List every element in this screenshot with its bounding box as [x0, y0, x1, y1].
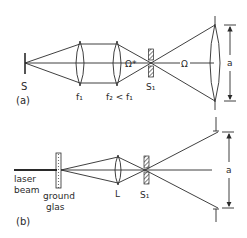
ray [151, 25, 215, 63]
slit-s1-upper-jaw-icon [144, 156, 149, 168]
omega-label: Ω [181, 59, 188, 69]
ray [118, 170, 145, 183]
ray [61, 170, 118, 183]
lens-f1-icon [76, 41, 84, 86]
lens-l-label: L [115, 189, 120, 199]
slit-s1-label: S₁ [140, 190, 150, 200]
optics-diagram: S (a) f₁ f₂ < f₁ Ω* S₁ Ω a [0, 0, 247, 238]
ray [118, 157, 145, 170]
ground-glass-label-line1: ground [43, 191, 75, 201]
source-label: S [21, 81, 27, 92]
laser-label-line2: beam [14, 185, 40, 195]
panel-b-labels: laser beam ground glas L S₁ (b) a [14, 164, 233, 227]
ray [145, 132, 218, 170]
ground-glass-icon [56, 153, 61, 188]
lens-f1-label: f₁ [76, 92, 83, 102]
omega-star-label: Ω* [125, 59, 137, 69]
slit-s1-lower-jaw-icon [144, 172, 149, 184]
slit-s1-upper-jaw-icon [149, 49, 154, 60]
panel-b-tag: (b) [16, 216, 30, 227]
ray [25, 63, 80, 83]
ray [145, 170, 218, 208]
ray [61, 157, 118, 170]
panel-a-labels: S (a) f₁ f₂ < f₁ Ω* S₁ Ω a [16, 57, 234, 106]
lens-f2-icon [113, 41, 121, 86]
laser-label-line1: laser [14, 174, 36, 184]
slit-s1-label: S₁ [146, 82, 156, 92]
ground-glass-label-line2: glas [46, 202, 65, 212]
lens-f2-label: f₂ < f₁ [106, 92, 133, 102]
ray [25, 44, 80, 63]
panel-a-tag: (a) [16, 95, 30, 106]
dimension-a-label: a [226, 165, 232, 175]
slit-s1-lower-jaw-icon [149, 66, 154, 77]
dimension-a-label: a [227, 58, 233, 68]
